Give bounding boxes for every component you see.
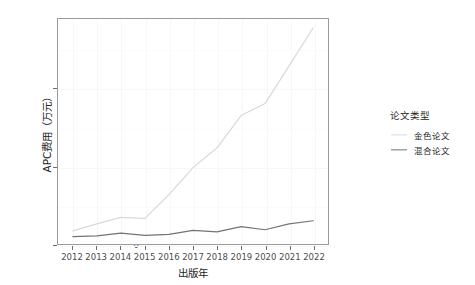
x-tick-mark — [120, 246, 121, 250]
y-tick-mark — [53, 245, 57, 246]
x-tick-label: 2022 — [303, 252, 325, 262]
series-line — [73, 221, 313, 237]
x-tick-mark — [266, 246, 267, 250]
series-line — [73, 28, 313, 231]
x-axis-title: 出版年 — [57, 265, 329, 280]
y-axis-title: APC费用（万元） — [39, 62, 54, 202]
x-tick-label: 2018 — [206, 252, 228, 262]
legend-key-icon — [390, 145, 408, 156]
x-tick-label: 2014 — [110, 252, 132, 262]
legend-item: 混合论文 — [390, 144, 450, 156]
x-tick-label: 2021 — [279, 252, 301, 262]
x-tick-label: 2016 — [158, 252, 180, 262]
x-tick-mark — [96, 246, 97, 250]
x-tick-label: 2013 — [85, 252, 107, 262]
legend-title: 论文类型 — [390, 108, 450, 122]
x-tick-mark — [217, 246, 218, 250]
y-axis-title-container: APC费用（万元） — [6, 18, 32, 245]
x-tick-mark — [193, 246, 194, 250]
x-tick-label: 2012 — [61, 252, 83, 262]
x-tick-mark — [72, 246, 73, 250]
legend-items: 金色论文混合论文 — [390, 129, 450, 156]
x-tick-label: 2020 — [255, 252, 277, 262]
legend-item-label: 混合论文 — [414, 144, 450, 156]
x-tick-mark — [169, 246, 170, 250]
legend: 论文类型 金色论文混合论文 — [390, 108, 450, 159]
series-lines — [58, 19, 328, 244]
x-tick-label: 2019 — [231, 252, 253, 262]
x-tick-mark — [314, 246, 315, 250]
chart-figure: APC费用（万元） 05001000 201220132014201520162… — [0, 0, 475, 285]
legend-item-label: 金色论文 — [414, 129, 450, 141]
x-tick-mark — [145, 246, 146, 250]
x-tick-mark — [241, 246, 242, 250]
legend-item: 金色论文 — [390, 129, 450, 141]
legend-key-icon — [390, 130, 408, 141]
x-tick-mark — [290, 246, 291, 250]
x-tick-label: 2017 — [182, 252, 204, 262]
plot-panel — [57, 18, 329, 245]
x-tick-label: 2015 — [134, 252, 156, 262]
